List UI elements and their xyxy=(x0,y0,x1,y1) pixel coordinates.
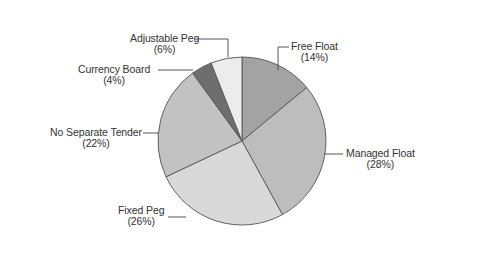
label-fixed-peg: Fixed Peg (26%) xyxy=(118,205,164,227)
label-adjustable-peg: Adjustable Peg (6%) xyxy=(130,33,199,55)
label-managed-float: Managed Float (28%) xyxy=(346,148,415,170)
leader-adjustable-peg xyxy=(195,39,228,57)
pie-slices xyxy=(158,57,326,225)
label-currency-board: Currency Board (4%) xyxy=(78,64,150,86)
label-no-separate-tender: No Separate Tender (22%) xyxy=(50,127,142,149)
label-free-float: Free Float (14%) xyxy=(291,41,338,63)
